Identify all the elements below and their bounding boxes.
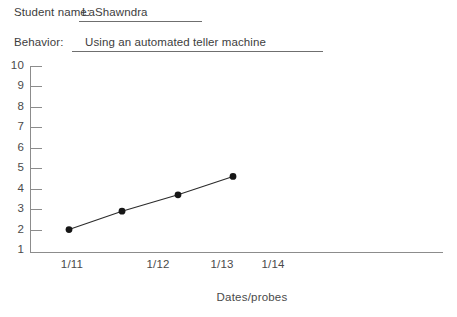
x-tick-label: 1/14 (243, 258, 303, 270)
y-tick-label: 6 (2, 141, 24, 153)
x-axis-title: Dates/probes (192, 291, 312, 303)
y-tick-label: 5 (2, 161, 24, 173)
y-tick-label: 8 (2, 100, 24, 112)
data-point (230, 173, 237, 180)
x-tick-label: 1/11 (42, 258, 102, 270)
y-tick-label: 1 (2, 243, 24, 255)
y-axis-ticks (31, 67, 43, 231)
data-point (66, 226, 73, 233)
data-point (175, 191, 182, 198)
y-tick-label: 4 (2, 182, 24, 194)
line-chart: 10987654321 1/111/121/131/14 Dates/probe… (0, 0, 457, 317)
y-tick-label: 2 (2, 223, 24, 235)
y-tick-label: 7 (2, 120, 24, 132)
data-point (119, 208, 126, 215)
y-tick-label: 9 (2, 79, 24, 91)
y-tick-label: 3 (2, 202, 24, 214)
worksheet-page: Student name: LaShawndra Behavior: Using… (0, 0, 457, 317)
y-tick-label: 10 (2, 59, 24, 71)
x-tick-label: 1/12 (128, 258, 188, 270)
series-line (69, 176, 233, 229)
